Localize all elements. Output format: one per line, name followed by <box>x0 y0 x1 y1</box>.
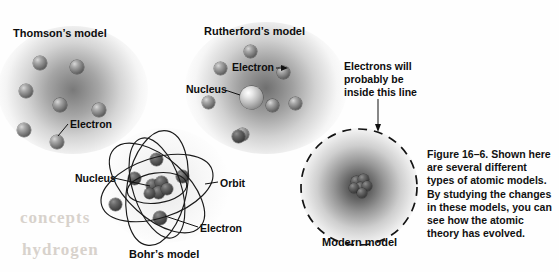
bohr-electron-6 <box>232 130 245 143</box>
thomson-electron-1 <box>33 56 47 70</box>
rutherford-electron-3 <box>277 66 290 79</box>
rutherford-electron-label: Electron <box>232 61 274 74</box>
figure-number: Figure 16–6. <box>427 148 488 160</box>
bleed-through-text-1: concepts <box>20 208 90 228</box>
bohr-nucleus-particle-4 <box>161 183 173 195</box>
rutherford-nucleus-label: Nucleus <box>186 83 227 96</box>
bohr-electron-4 <box>109 198 122 211</box>
figure-caption-text: Shown here are several different types o… <box>427 148 552 239</box>
thomson-electron-4 <box>53 98 67 112</box>
bohr-model-title: Bohr’s model <box>129 248 199 260</box>
bohr-electron-5 <box>153 211 167 225</box>
bohr-electron-2 <box>128 172 141 185</box>
bohr-orbit-label: Orbit <box>220 177 245 190</box>
bohr-nucleus-particle-5 <box>144 188 155 199</box>
thomson-electron-label: Electron <box>70 118 112 131</box>
thomson-model-title: Thomson’s model <box>13 27 107 39</box>
atomic-models-figure: concepts hydrogen Thomson’s model Electr… <box>0 0 559 272</box>
thomson-electron-6 <box>17 123 31 137</box>
modern-nucleus-particle-6 <box>357 188 367 198</box>
rutherford-model-title: Rutherford’s model <box>204 25 305 37</box>
rutherford-electron-2 <box>214 62 227 75</box>
bohr-electron-3 <box>176 170 189 183</box>
rutherford-electron-4 <box>202 96 215 109</box>
modern-boundary-label-line-1: Electrons will <box>344 60 440 73</box>
bleed-through-text-2: hydrogen <box>22 240 99 260</box>
modern-boundary-label-line-3: inside this line <box>344 86 444 99</box>
modern-model-title: Modern model <box>322 236 397 248</box>
rutherford-electron-5 <box>266 99 279 112</box>
modern-boundary-label-line-2: probably be <box>344 73 440 86</box>
bohr-nucleus-label: Nucleus <box>75 172 116 185</box>
modern-boundary-leader-line <box>375 99 381 132</box>
rutherford-electron-1 <box>244 45 257 58</box>
bohr-electron-label: Electron <box>200 222 242 235</box>
thomson-electron-7 <box>50 135 64 149</box>
thomson-electron-2 <box>70 60 84 74</box>
bohr-electron-1 <box>150 153 163 166</box>
thomson-electron-5 <box>92 103 106 117</box>
rutherford-electron-6 <box>289 97 302 110</box>
figure-caption: Figure 16–6. Shown here are several diff… <box>427 148 555 240</box>
thomson-electron-3 <box>19 84 33 98</box>
rutherford-nucleus <box>240 86 263 109</box>
